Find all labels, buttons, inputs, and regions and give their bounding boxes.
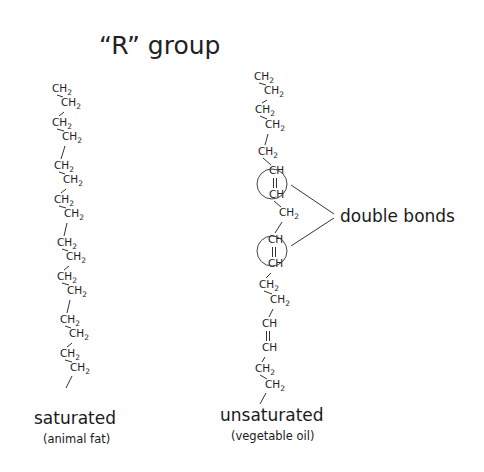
unsaturated-atom-ch2: CH2 <box>265 378 285 393</box>
unsaturated-single-bond <box>265 134 268 145</box>
pointer-line-2 <box>291 218 334 246</box>
saturated-atom-ch2: CH2 <box>62 130 82 145</box>
saturated-single-bond <box>67 300 70 313</box>
saturated-single-bond <box>64 223 67 236</box>
saturated-atom-ch2: CH2 <box>54 193 74 208</box>
saturated-atom-ch2: CH2 <box>52 82 72 97</box>
saturated-atom-ch2: CH2 <box>57 270 77 285</box>
saturated-atom-ch2: CH2 <box>64 207 84 222</box>
saturated-chain: CH2CH2CH2CH2CH2CH2CH2CH2CH2CH2CH2CH2CH2C… <box>52 82 90 388</box>
saturated-atom-ch2: CH2 <box>61 96 81 111</box>
saturated-atom-ch2: CH2 <box>69 327 89 342</box>
diagram-title: “R” group <box>99 31 220 60</box>
pointer-line-1 <box>291 185 334 214</box>
saturated-atom-ch2: CH2 <box>63 173 83 188</box>
unsaturated-single-bond <box>275 222 282 233</box>
saturated-single-bond <box>61 146 65 159</box>
unsaturated-atom-ch2: CH2 <box>255 103 275 118</box>
unsaturated-single-bond <box>269 309 273 317</box>
unsaturated-chain-tail <box>260 393 266 404</box>
unsaturated-atom-ch2: CH2 <box>264 84 284 99</box>
r-group-diagram: “R” group CH2CH2CH2CH2CH2CH2CH2CH2CH2CH2… <box>0 0 484 472</box>
saturated-sublabel: (animal fat) <box>43 432 110 446</box>
unsaturated-atom-ch2: CH2 <box>270 293 290 308</box>
unsaturated-sublabel: (vegetable oil) <box>231 429 314 443</box>
unsaturated-atom-ch2: CH2 <box>254 70 274 85</box>
saturated-atom-ch2: CH2 <box>54 159 74 174</box>
unsaturated-atom-ch: CH <box>262 341 277 353</box>
unsaturated-atom-ch2: CH2 <box>255 362 275 377</box>
saturated-atom-ch2: CH2 <box>67 284 87 299</box>
unsaturated-atom-ch: CH <box>262 317 277 329</box>
saturated-atom-ch2: CH2 <box>66 250 86 265</box>
saturated-atom-ch2: CH2 <box>60 347 80 362</box>
unsaturated-atom-ch2: CH2 <box>259 278 279 293</box>
double-bonds-label: double bonds <box>340 206 455 226</box>
unsaturated-label: unsaturated <box>220 405 324 425</box>
unsaturated-atom-ch2: CH2 <box>279 206 299 221</box>
unsaturated-atom-ch2: CH2 <box>265 118 285 133</box>
unsaturated-atom-ch2: CH2 <box>258 145 278 160</box>
saturated-atom-ch2: CH2 <box>70 361 90 376</box>
saturated-atom-ch2: CH2 <box>57 236 77 251</box>
saturated-label: saturated <box>34 408 116 428</box>
saturated-atom-ch2: CH2 <box>52 116 72 131</box>
saturated-atom-ch2: CH2 <box>60 313 80 328</box>
saturated-chain-tail <box>66 376 72 388</box>
